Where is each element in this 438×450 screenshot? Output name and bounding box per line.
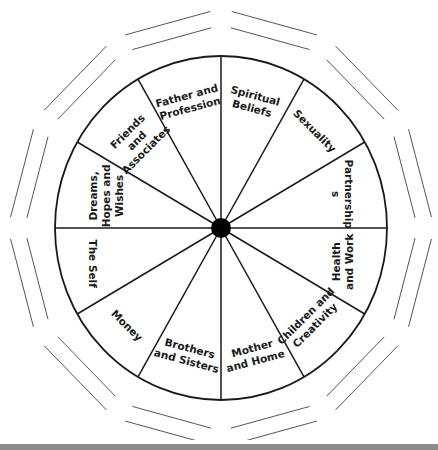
bottom-bar [0,444,438,450]
svg-text:The Self: The Self [87,239,99,288]
outer-frame-line [11,239,34,327]
outer-frame-line [132,28,211,50]
outer-frame-line [11,129,34,217]
outer-frame-line [231,28,310,50]
outer-frame-line [27,238,48,319]
center-hub [211,218,231,238]
outer-frame-line [27,137,48,218]
outer-frame-line [409,239,432,327]
outer-frame-line [132,406,211,428]
outer-frame-line [394,137,415,218]
outer-frame-line [232,421,317,440]
outer-frame-line [231,406,310,428]
outer-frame-line [125,421,210,440]
sector-label-the-self: The Self [87,239,99,288]
outer-frame-line [394,238,415,319]
houses-wheel-diagram: SpiritualBeliefsSexualityPartnershipsHea… [0,0,438,440]
outer-frame-line [409,129,432,217]
